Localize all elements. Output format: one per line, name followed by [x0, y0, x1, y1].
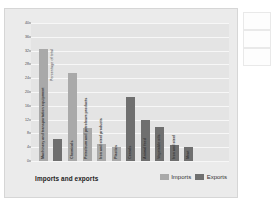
bar-category-label: Animal feed [143, 138, 147, 159]
bar-slot[interactable]: Cereals [123, 23, 138, 161]
y-tick-label: 16 [25, 104, 29, 108]
chart-figure: 0481216202428323640 Percentage of total … [0, 0, 272, 203]
plot-area: 0481216202428323640 Percentage of total … [31, 23, 229, 161]
legend-item-exports: Exports [195, 174, 227, 180]
bar-slot[interactable]: Petroleum and petroleum products [80, 23, 95, 161]
bar-category-label: Petroleum and petroleum products [84, 98, 88, 159]
bar-category-label: Chemicals [70, 141, 74, 159]
bar-slot[interactable]: Meat [182, 23, 197, 161]
y-tick-label: 28 [25, 62, 29, 66]
side-panel-bottom [243, 48, 271, 66]
bar-category-label: Iron and steel [172, 135, 176, 159]
bar-category-label: Vegetable oils [157, 134, 161, 159]
y-tick-label: 32 [25, 49, 29, 53]
bar-slot[interactable]: Chemicals [65, 23, 80, 161]
bar-category-label: Iron and steel products [99, 118, 103, 159]
legend-label-exports: Exports [207, 174, 227, 180]
y-tick-label: 24 [25, 76, 29, 80]
legend-swatch-imports [160, 174, 169, 180]
bar-slot[interactable]: Plastics [109, 23, 124, 161]
bar[interactable] [53, 139, 62, 161]
y-tick-label: 8 [27, 131, 29, 135]
bar-slot[interactable]: Iron and steel [167, 23, 182, 161]
y-tick-label: 20 [25, 90, 29, 94]
bar-slot[interactable] [51, 23, 66, 161]
bar-slot[interactable]: Vegetable oils [153, 23, 168, 161]
chart-card: 0481216202428323640 Percentage of total … [4, 8, 238, 198]
y-tick-label: 36 [25, 35, 29, 39]
bar-category-label: Machinery and transportation equipment [41, 87, 45, 159]
side-panel-top [243, 12, 271, 30]
y-tick-label: 4 [27, 145, 29, 149]
bar-category-label: Cereals [128, 146, 132, 159]
chart-legend: Imports Exports [160, 174, 227, 180]
bar-slot[interactable]: Iron and steel products [94, 23, 109, 161]
bar-category-label: Meat [186, 151, 190, 159]
legend-swatch-exports [195, 174, 204, 180]
legend-label-imports: Imports [171, 174, 191, 180]
bar-slot[interactable]: Machinery and transportation equipment [36, 23, 51, 161]
chart-title: Imports and exports [35, 175, 98, 182]
gridline [31, 161, 229, 162]
bar-category-label: Plastics [114, 145, 118, 159]
y-tick-label: 40 [25, 21, 29, 25]
y-tick-label: 0 [27, 159, 29, 163]
legend-item-imports: Imports [160, 174, 192, 180]
side-panel-middle [243, 30, 271, 48]
y-tick-label: 12 [25, 118, 29, 122]
bar-slot[interactable]: Animal feed [138, 23, 153, 161]
bar-series-group: Machinery and transportation equipmentCh… [31, 23, 229, 161]
